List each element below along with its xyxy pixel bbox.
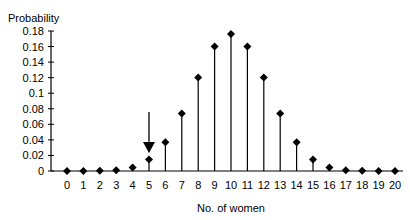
- y-tick-label: 0.04: [23, 134, 44, 146]
- x-axis-label: No. of women: [197, 202, 265, 214]
- y-tick-label: 0.08: [23, 103, 44, 115]
- data-point-marker: [194, 74, 202, 82]
- x-tick-label: 9: [212, 179, 218, 191]
- x-tick-label: 20: [389, 179, 401, 191]
- x-tick-label: 5: [146, 179, 152, 191]
- data-point-marker: [325, 163, 333, 171]
- y-tick-label: 0.14: [23, 56, 44, 68]
- data-point-marker: [309, 155, 317, 163]
- x-tick-label: 2: [97, 179, 103, 191]
- data-point-marker: [293, 138, 301, 146]
- y-tick-label: 0.12: [23, 72, 44, 84]
- y-tick-label: 0.06: [23, 118, 44, 130]
- data-point-marker: [161, 138, 169, 146]
- x-tick-label: 10: [225, 179, 237, 191]
- x-tick-label: 13: [274, 179, 286, 191]
- x-tick-label: 11: [242, 179, 253, 191]
- y-tick-label: 0.18: [23, 25, 44, 37]
- x-tick-label: 7: [179, 179, 185, 191]
- data-point-marker: [227, 30, 235, 38]
- x-tick-label: 1: [80, 179, 86, 191]
- data-point-marker: [211, 42, 219, 50]
- x-tick-label: 19: [372, 179, 384, 191]
- x-tick-label: 0: [64, 179, 70, 191]
- data-point-marker: [145, 155, 153, 163]
- x-tick-label: 18: [356, 179, 368, 191]
- probability-stem-chart: Probability 00.020.040.060.080.10.120.14…: [0, 0, 410, 220]
- data-point-marker: [243, 42, 251, 50]
- arrow-annotation-icon: [143, 112, 155, 153]
- x-tick-label: 3: [113, 179, 119, 191]
- y-tick-label: 0.16: [23, 41, 44, 53]
- x-tick-label: 6: [162, 179, 168, 191]
- data-point-marker: [276, 110, 284, 118]
- x-tick-label: 14: [290, 179, 302, 191]
- data-point-marker: [112, 166, 120, 174]
- x-tick-label: 16: [323, 179, 335, 191]
- y-axis: 00.020.040.060.080.10.120.140.160.18: [23, 25, 54, 177]
- x-tick-label: 8: [195, 179, 201, 191]
- x-tick-label: 17: [340, 179, 352, 191]
- x-tick-label: 12: [258, 179, 270, 191]
- data-point-marker: [129, 163, 137, 171]
- y-tick-label: 0.02: [23, 149, 44, 161]
- data-point-marker: [260, 74, 268, 82]
- y-tick-label: 0.1: [29, 87, 44, 99]
- y-axis-label: Probability: [8, 12, 60, 24]
- x-axis: 01234567891011121314151617181920: [51, 171, 403, 191]
- data-point-marker: [342, 166, 350, 174]
- data-stems: [63, 30, 399, 175]
- x-tick-label: 4: [130, 179, 136, 191]
- data-point-marker: [178, 110, 186, 118]
- x-tick-label: 15: [307, 179, 319, 191]
- y-tick-label: 0: [38, 165, 44, 177]
